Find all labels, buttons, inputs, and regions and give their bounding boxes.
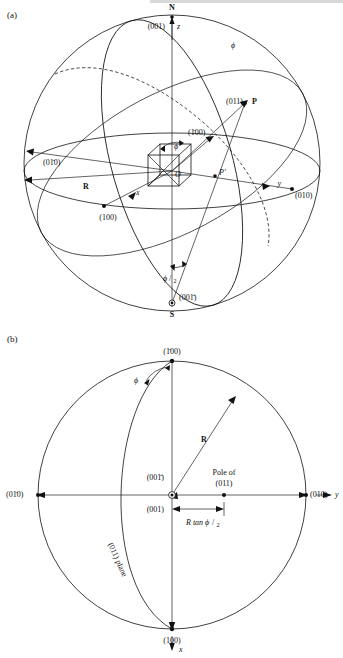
phi-label-center-a: ϕ xyxy=(174,142,178,151)
plane-label-b: (011) plane xyxy=(106,541,129,578)
point-p-prime-a xyxy=(213,174,217,178)
north-pole-label-a: N xyxy=(169,3,175,12)
point-010bar-b xyxy=(36,493,40,497)
z-axis-label-a: z xyxy=(176,22,181,31)
north-pole-point-a xyxy=(170,15,174,19)
index-010-label-a: (010) xyxy=(295,191,313,200)
radius-label-b: R xyxy=(201,435,207,444)
x-axis-label-b: x xyxy=(178,645,183,654)
y-axis-arrowhead-a xyxy=(262,183,270,190)
south-pole-label-a: S xyxy=(170,310,175,319)
north-index-label-a: (001) xyxy=(148,22,166,31)
south-pole-point-a xyxy=(171,302,174,305)
panel-b-label: (b) xyxy=(7,334,18,344)
y-axis-label-b: y xyxy=(334,490,339,499)
left-index-label-b: (01̄0) xyxy=(6,490,24,499)
distance-arrow-left-b xyxy=(172,506,180,512)
phi-half-slash-a: / xyxy=(169,274,172,283)
distance-arrow-right-b xyxy=(216,506,224,512)
point-100-b xyxy=(170,627,174,631)
top-index-label-b: (1̄00) xyxy=(163,347,181,356)
phi-label-upper-a: ϕ xyxy=(231,41,235,50)
cube-edge-tl-a xyxy=(148,144,160,155)
distance-den-b: 2 xyxy=(216,521,219,528)
point-100bar-b xyxy=(170,359,174,363)
bottom-index-label-b: (100) xyxy=(163,636,181,645)
phi-half-den-a: 2 xyxy=(173,277,176,284)
point-010-b xyxy=(304,493,308,497)
right-index-label-b: (010) xyxy=(310,490,328,499)
index-100bar-label-a: (1̄00) xyxy=(188,128,206,137)
pole-011-label-a: (011) xyxy=(226,97,243,106)
centre-index-lower-b: (001) xyxy=(147,505,165,514)
centre-point-b xyxy=(171,494,174,497)
centre-index-upper-b: (001̄) xyxy=(147,473,165,482)
index-010bar-label-a: (01̄0) xyxy=(43,158,61,167)
point-p-label-a: P xyxy=(252,97,257,106)
point-100-a xyxy=(102,204,106,208)
phi-arc-arrow-left-a xyxy=(160,146,165,153)
cube-edge-tr-a xyxy=(179,144,191,155)
pole-of-line1-b: Pole of xyxy=(213,468,236,477)
panel-a-group: (a) N (001) z ϕ P (011) (1̄00) ϕ (01̄0) … xyxy=(7,3,336,322)
crystallographic-figure: (a) N (001) z ϕ P (011) (1̄00) ϕ (01̄0) … xyxy=(0,0,343,658)
minus-y-arrowhead-a xyxy=(26,149,34,156)
index-100-label-a: (100) xyxy=(99,213,117,222)
phi-arc-arrow-right-a xyxy=(179,140,184,146)
phi-half-arrow-left-a xyxy=(170,264,175,271)
x-axis-label-a: x xyxy=(135,188,140,197)
distance-label-b: R tan ϕ xyxy=(185,518,209,527)
unit-cell-cube-a xyxy=(148,144,191,186)
radius-arrowhead-outer-b xyxy=(228,396,236,404)
distance-slash-b: / xyxy=(212,518,215,527)
south-index-label-a: (001̄) xyxy=(179,293,197,302)
radius-label-a: R xyxy=(83,182,89,191)
panel-a-label: (a) xyxy=(7,10,17,20)
inclined-circle-hidden-arc-a xyxy=(55,68,269,246)
phi-half-num-a: ϕ xyxy=(163,274,167,283)
point-p-prime-label-a: P′ xyxy=(218,168,226,177)
cube-edge-br-a xyxy=(179,175,191,186)
pole-011-point-b xyxy=(222,493,226,497)
phi-label-b: ϕ xyxy=(134,376,138,385)
y-axis-label-a: y xyxy=(276,179,281,188)
point-010-a xyxy=(290,187,294,191)
phi-half-arrow-right-a xyxy=(182,261,187,268)
op-radius-line-a xyxy=(172,103,245,171)
point-p-a xyxy=(243,101,247,105)
panel-b-group: (b) (1̄00) ϕ R (001̄) (001) Pole of (011… xyxy=(6,334,339,654)
figure-root: (a) N (001) z ϕ P (011) (1̄00) ϕ (01̄0) … xyxy=(0,0,343,658)
pole-of-line2-b: (011) xyxy=(215,479,232,488)
origin-label-a: O xyxy=(175,170,181,179)
